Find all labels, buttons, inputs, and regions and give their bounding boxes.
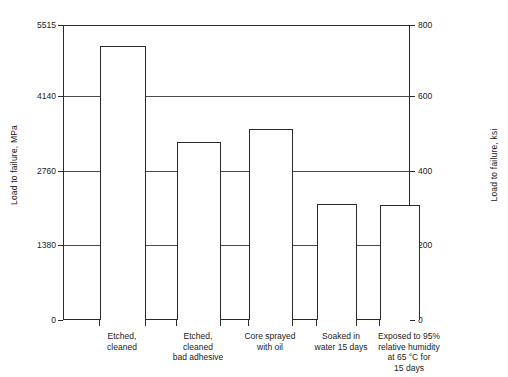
y-tick-label-left-0: 0 xyxy=(51,315,56,325)
bar-etched-cleaned xyxy=(100,46,146,320)
x-tick-mark-2a xyxy=(176,320,177,326)
y-tick-label-left-4140: 4140 xyxy=(37,91,56,101)
x-axis-label-line: Exposed to 95% xyxy=(353,331,465,342)
y-tick-label-right-600: 600 xyxy=(418,91,432,101)
x-tick-mark-1a xyxy=(99,320,100,326)
y-tick-mark-right-400 xyxy=(410,171,415,172)
y-tick-mark-right-600 xyxy=(410,96,415,97)
bar-etched-cleaned-bad-adhesive xyxy=(177,142,221,320)
y-axis-title-right: Load to failure, ksi xyxy=(489,105,499,225)
x-tick-mark-1b xyxy=(145,320,146,326)
x-axis-label-line: 15 days xyxy=(353,363,465,374)
y-tick-label-right-200: 200 xyxy=(418,240,432,250)
y-tick-mark-right-0 xyxy=(410,320,415,321)
x-axis-label-line: relative humidity xyxy=(353,342,465,353)
y-tick-label-left-2760: 2760 xyxy=(37,166,56,176)
y-tick-label-right-400: 400 xyxy=(418,166,432,176)
y-tick-label-right-800: 800 xyxy=(418,20,432,30)
y-tick-mark-right-800 xyxy=(410,25,415,26)
x-axis-label-line: at 65 °C for xyxy=(353,352,465,363)
x-tick-mark-4a xyxy=(316,320,317,326)
bar-exposed-95-relative-humidity xyxy=(380,205,420,320)
y-axis-title-left: Load to failure, MPa xyxy=(9,105,19,225)
bar-core-sprayed-with-oil xyxy=(249,129,293,320)
x-axis-label-line: bad adhesive xyxy=(146,352,250,363)
x-tick-mark-3a xyxy=(248,320,249,326)
bar-chart-figure: Load to failure, MPa Load to failure, ks… xyxy=(0,0,508,377)
x-tick-mark-3b xyxy=(292,320,293,326)
plot-area xyxy=(63,25,410,320)
bar-soaked-in-water-15-days xyxy=(317,204,357,320)
y-tick-label-left-5515: 5515 xyxy=(37,20,56,30)
y-tick-mark-left-0 xyxy=(58,320,63,321)
x-tick-mark-4b xyxy=(356,320,357,326)
x-tick-mark-2b xyxy=(220,320,221,326)
y-tick-label-left-1380: 1380 xyxy=(37,240,56,250)
x-tick-mark-5a xyxy=(379,320,380,326)
x-axis-label-exposed-95-relative-humidity: Exposed to 95% relative humidity at 65 °… xyxy=(353,331,465,373)
